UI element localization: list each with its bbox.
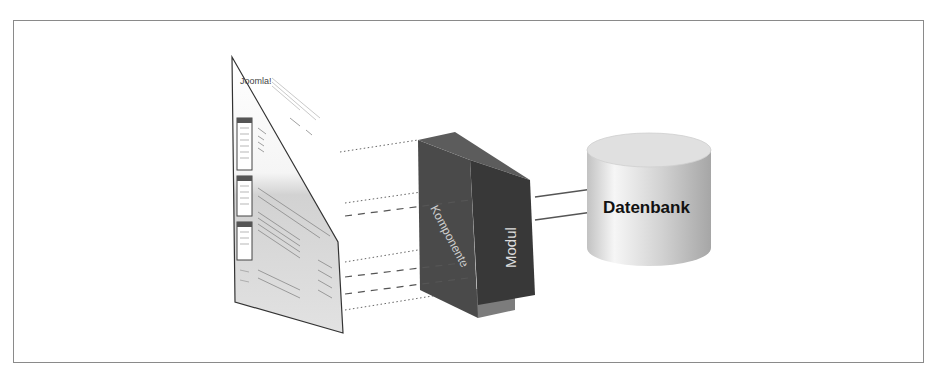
architecture-diagram-layer: Joomla! <box>0 0 938 376</box>
database-cylinder: Datenbank <box>587 133 711 266</box>
webpage-sidebar <box>237 118 252 282</box>
joomla-logo: Joomla! <box>240 76 272 86</box>
cylinder-top <box>587 133 711 167</box>
modul-label: Modul <box>502 227 519 268</box>
database-label: Datenbank <box>603 198 690 217</box>
